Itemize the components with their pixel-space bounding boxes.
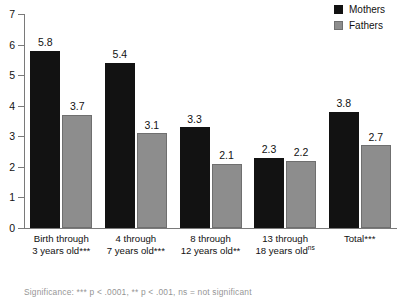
y-tick-label: 4 (0, 101, 15, 112)
y-tick-label: 2 (0, 162, 15, 173)
y-tick-label: 6 (0, 40, 15, 51)
bar-group: 3.82.7 (329, 14, 391, 228)
x-axis-line (24, 228, 397, 229)
bar-group: 5.83.7 (30, 14, 92, 228)
legend-item-mothers: Mothers (334, 3, 385, 16)
bar-fathers (212, 164, 242, 228)
y-tick-label: 1 (0, 192, 15, 203)
mothers-swatch-icon (334, 5, 343, 14)
y-tick-label: 5 (0, 70, 15, 81)
bar-value-label: 3.7 (57, 101, 97, 112)
bar-group: 3.32.1 (180, 14, 242, 228)
bar-mothers (329, 112, 359, 228)
bar-mothers (30, 51, 60, 228)
bar-value-label: 5.4 (100, 49, 140, 60)
bar-value-label: 2.1 (207, 150, 247, 161)
bar-value-label: 2.2 (281, 147, 321, 158)
significance-footnote: Significance: *** p < .0001, ** p < .001… (24, 287, 404, 297)
bar-group: 2.32.2 (254, 14, 316, 228)
bar-group: 5.43.1 (105, 14, 167, 228)
plot-area: 5.83.75.43.13.32.12.32.23.82.7 (24, 14, 397, 228)
legend-label-fathers: Fathers (349, 21, 383, 31)
legend: Mothers Fathers (334, 3, 385, 35)
category-label: Total*** (305, 233, 409, 245)
y-tick-label: 3 (0, 131, 15, 142)
bar-fathers (62, 115, 92, 228)
bar-value-label: 3.8 (324, 98, 364, 109)
y-tick-label: 0 (0, 223, 15, 234)
bar-fathers (286, 161, 316, 228)
y-tick-mark (18, 228, 24, 229)
bar-value-label: 3.3 (175, 114, 215, 125)
bar-fathers (361, 145, 391, 228)
bar-mothers (254, 158, 284, 228)
bar-value-label: 3.1 (132, 120, 172, 131)
bar-mothers (105, 63, 135, 228)
bar-value-label: 5.8 (25, 37, 65, 48)
legend-label-mothers: Mothers (349, 5, 385, 15)
fathers-swatch-icon (334, 21, 343, 30)
bar-value-label: 2.7 (356, 132, 396, 143)
bar-fathers (137, 133, 167, 228)
legend-item-fathers: Fathers (334, 19, 385, 32)
y-tick-label: 7 (0, 9, 15, 20)
bar-mothers (180, 127, 210, 228)
